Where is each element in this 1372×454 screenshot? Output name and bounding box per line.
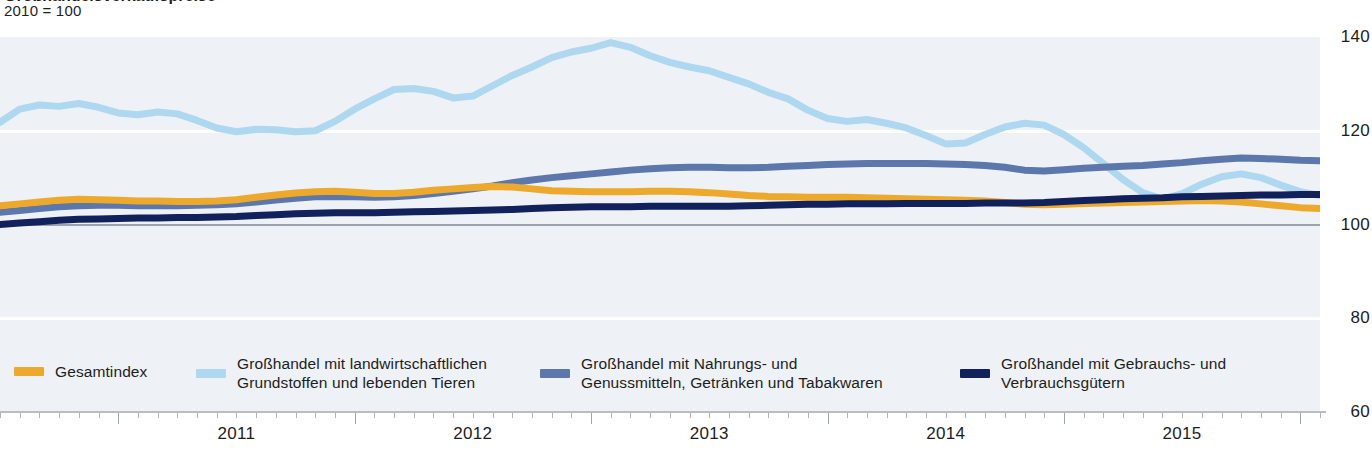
y-tick-100: 100	[1341, 215, 1370, 235]
x-tick-month	[1025, 413, 1026, 418]
legend-agrar[interactable]: Großhandel mit landwirtschaftlichen Grun…	[196, 354, 487, 392]
x-tick-month	[374, 413, 375, 418]
x-tick-month	[276, 413, 277, 418]
series-line-1	[0, 43, 1320, 200]
x-tick-month	[177, 413, 178, 418]
x-tick-month	[690, 413, 691, 418]
x-tick-month	[296, 413, 297, 418]
y-tick-80: 80	[1350, 308, 1370, 328]
x-tick-month	[99, 413, 100, 418]
x-tick-month	[414, 413, 415, 418]
x-tick-year-2014	[828, 413, 829, 424]
legend-nahrung[interactable]: Großhandel mit Nahrungs- und Genussmitte…	[540, 354, 883, 392]
x-tick-month	[59, 413, 60, 418]
x-tick-month	[473, 413, 474, 418]
legend-gesamtindex-label: Gesamtindex	[55, 362, 147, 381]
x-tick-month	[433, 413, 434, 418]
x-tick-month	[1143, 413, 1144, 418]
x-tick-month	[532, 413, 533, 418]
x-axis-labels: 20112012201320142015	[0, 424, 1330, 448]
x-tick-month	[571, 413, 572, 418]
x-tick-month	[236, 413, 237, 418]
x-tick-year-2015	[1064, 413, 1065, 424]
legend-gebrauch[interactable]: Großhandel mit Gebrauchs- und Verbrauchs…	[960, 354, 1226, 392]
x-tick-month	[1162, 413, 1163, 418]
x-tick-month	[867, 413, 868, 418]
x-tick-month	[670, 413, 671, 418]
x-tick-month	[1261, 413, 1262, 418]
x-tick-month	[1241, 413, 1242, 418]
x-tick-month	[985, 413, 986, 418]
x-tick-month	[256, 413, 257, 418]
x-tick-month	[709, 413, 710, 418]
x-tick-month	[394, 413, 395, 418]
x-axis	[0, 411, 1330, 425]
index-base-note: 2010 = 100	[4, 2, 82, 19]
x-tick-month	[197, 413, 198, 418]
x-axis-label-2013: 2013	[690, 424, 729, 444]
legend-agrar-label: Großhandel mit landwirtschaftlichen Grun…	[237, 354, 487, 392]
x-tick-month	[749, 413, 750, 418]
x-tick-month	[1103, 413, 1104, 418]
x-tick-month	[808, 413, 809, 418]
x-tick-month	[847, 413, 848, 418]
x-tick-month	[630, 413, 631, 418]
x-axis-label-2015: 2015	[1163, 424, 1202, 444]
legend-gebrauch-label: Großhandel mit Gebrauchs- und Verbrauchs…	[1001, 354, 1226, 392]
x-tick-month	[217, 413, 218, 418]
x-tick-month	[650, 413, 651, 418]
x-axis-label-2011: 2011	[218, 424, 256, 444]
x-tick-month	[1202, 413, 1203, 418]
x-tick-month	[1084, 413, 1085, 418]
x-tick-month	[788, 413, 789, 418]
x-tick-month	[926, 413, 927, 418]
x-tick-month	[0, 413, 1, 418]
x-tick-month	[887, 413, 888, 418]
x-tick-month	[138, 413, 139, 418]
legend-gesamtindex[interactable]: Gesamtindex	[14, 362, 147, 381]
legend-gebrauch-swatch	[960, 369, 990, 378]
x-tick-month	[79, 413, 80, 418]
x-tick-month	[906, 413, 907, 418]
x-tick-month	[946, 413, 947, 418]
x-tick-month	[315, 413, 316, 418]
x-tick-month	[1182, 413, 1183, 418]
x-tick-month	[335, 413, 336, 418]
x-tick-month	[20, 413, 21, 418]
x-tick-month	[1044, 413, 1045, 418]
x-tick-month	[1320, 413, 1321, 418]
x-tick-month	[158, 413, 159, 418]
x-tick-month	[1222, 413, 1223, 418]
x-axis-label-2012: 2012	[453, 424, 492, 444]
x-tick-month	[512, 413, 513, 418]
x-tick-month	[1281, 413, 1282, 418]
x-tick-month	[1005, 413, 1006, 418]
y-tick-120: 120	[1341, 121, 1370, 141]
x-tick-year-2016	[1300, 413, 1301, 424]
x-tick-month	[611, 413, 612, 418]
x-tick-month	[453, 413, 454, 418]
y-tick-140: 140	[1341, 27, 1370, 47]
x-tick-year-2013	[591, 413, 592, 424]
x-axis-line	[0, 411, 1326, 413]
x-tick-month	[493, 413, 494, 418]
chart-legend: GesamtindexGroßhandel mit landwirtschaft…	[0, 348, 1372, 396]
x-tick-month	[552, 413, 553, 418]
x-tick-year-2012	[355, 413, 356, 424]
chart-page: { "header": { "title_clipped": "Großhand…	[0, 0, 1372, 454]
x-axis-label-2014: 2014	[926, 424, 965, 444]
x-tick-month	[729, 413, 730, 418]
x-tick-month	[39, 413, 40, 418]
x-tick-month	[768, 413, 769, 418]
y-tick-60: 60	[1350, 402, 1370, 422]
x-tick-month	[965, 413, 966, 418]
x-tick-month	[1123, 413, 1124, 418]
legend-nahrung-swatch	[540, 369, 570, 378]
x-tick-year-2011	[118, 413, 119, 424]
legend-gesamtindex-swatch	[14, 367, 44, 376]
legend-agrar-swatch	[196, 369, 226, 378]
legend-nahrung-label: Großhandel mit Nahrungs- und Genussmitte…	[581, 354, 883, 392]
